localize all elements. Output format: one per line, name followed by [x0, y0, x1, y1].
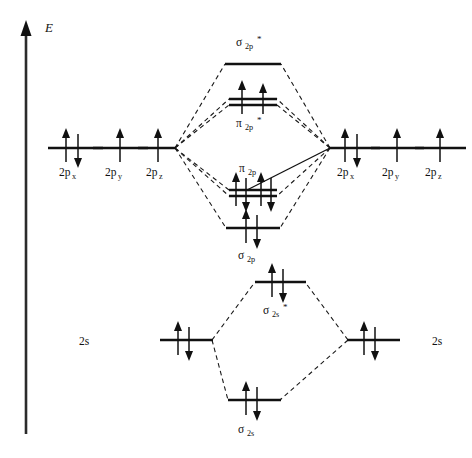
correlation-lines-2s: [212, 282, 348, 400]
level-label: 2p: [382, 166, 394, 179]
electron-arrow-up: [238, 80, 246, 114]
mo-label-subscript: 2p: [247, 255, 255, 264]
level-right-2s[interactable]: 2s: [347, 321, 443, 361]
mo-label-antibonding-star: *: [283, 302, 288, 312]
mo-label: π: [239, 162, 245, 174]
mo-pi-2p-star[interactable]: π 2p *: [229, 80, 277, 132]
level-right-2px[interactable]: 2p x: [329, 128, 380, 181]
level-label-subscript: x: [350, 172, 354, 181]
electron-arrow-up: [242, 381, 250, 415]
mo-label: σ: [263, 304, 270, 316]
level-left-2py[interactable]: 2p y: [93, 128, 148, 181]
level-right-2py[interactable]: 2p y: [371, 128, 424, 181]
level-label: 2s: [432, 335, 443, 347]
mo-label-subscript: 2p: [248, 168, 256, 177]
mo-label-subscript: 2s: [272, 310, 279, 319]
level-label: 2s: [79, 335, 90, 347]
electron-arrow-up: [154, 128, 162, 162]
energy-axis-label: E: [44, 20, 53, 35]
mo-sigma-2s-star[interactable]: σ 2s *: [255, 263, 306, 319]
level-right-2pz[interactable]: 2p z: [415, 128, 466, 181]
right-atom-2p-levels: 2p x 2p y 2p z: [329, 128, 466, 181]
electron-arrow-down: [185, 327, 193, 361]
mo-label: σ: [236, 36, 243, 48]
electron-arrow-up: [62, 128, 70, 162]
mo-label: π: [236, 117, 242, 129]
energy-axis: E: [21, 20, 54, 434]
corr-left-2p-to-sigma2p: [175, 148, 226, 228]
corr-left-2p-to-sigma2p-star: [175, 64, 225, 148]
electron-arrow-up: [436, 128, 444, 162]
electron-arrow-up: [341, 128, 349, 162]
electron-arrow-down: [253, 387, 261, 421]
level-label-subscript: z: [159, 172, 163, 181]
corr-right-2p-to-pi2p-solid: [247, 148, 330, 190]
corr-left-2p-to-pi2p-b: [175, 148, 229, 196]
electron-arrow-down: [74, 134, 82, 168]
level-label-subscript: y: [118, 172, 123, 181]
electron-arrow-down: [253, 215, 261, 249]
level-label-subscript: z: [438, 172, 442, 181]
corr-right-2s-to-sigma2s: [280, 340, 348, 400]
electron-arrow-up: [116, 128, 124, 162]
mo-label-subscript: 2p: [245, 123, 253, 132]
electron-arrow-down: [371, 327, 379, 361]
left-atom-2p-levels: 2p x 2p y 2p z: [48, 128, 176, 181]
level-label: 2p: [337, 166, 349, 179]
level-label: 2p: [146, 166, 158, 179]
corr-right-2p-to-pi2p-star-b: [277, 105, 330, 148]
mo-sigma-2p-star[interactable]: σ 2p *: [225, 34, 281, 64]
corr-left-2p-to-pi2p-star-a: [175, 99, 229, 148]
level-label-subscript: x: [72, 172, 76, 181]
electron-arrow-up: [360, 321, 368, 355]
corr-right-2s-to-sigma2s-star: [305, 282, 348, 340]
mo-label-antibonding-star: *: [257, 34, 262, 44]
corr-right-2p-to-pi2p-star-a: [277, 99, 330, 148]
level-label: 2p: [59, 166, 71, 179]
corr-right-2p-to-pi2p-b: [277, 148, 330, 196]
level-label: 2p: [425, 166, 437, 179]
mo-label-subscript: 2p: [245, 42, 253, 51]
electron-arrow-up: [174, 321, 182, 355]
correlation-lines-2p: [175, 64, 330, 228]
electron-arrow-up: [242, 209, 250, 243]
level-left-2px[interactable]: 2p x: [48, 128, 103, 181]
corr-left-2s-to-sigma2s: [212, 340, 228, 400]
electron-arrow-down: [279, 269, 287, 303]
mo-label-subscript: 2s: [247, 429, 254, 438]
level-label-subscript: y: [395, 172, 400, 181]
corr-right-2p-to-sigma2p-star: [281, 64, 330, 148]
electron-arrow-down: [353, 134, 361, 168]
mo-sigma-2p[interactable]: σ 2p: [226, 209, 280, 264]
mo-sigma-2s[interactable]: σ 2s: [228, 381, 281, 438]
level-label: 2p: [105, 166, 117, 179]
energy-axis-arrowhead: [21, 20, 32, 36]
electron-arrow-up: [268, 263, 276, 297]
level-left-2pz[interactable]: 2p z: [138, 128, 176, 181]
corr-left-2s-to-sigma2s-star: [212, 282, 255, 340]
electron-arrow-up: [393, 128, 401, 162]
mo-label: σ: [238, 249, 245, 261]
mo-label: σ: [238, 423, 245, 435]
mo-diagram-canvas: E: [0, 0, 472, 458]
corr-left-2p-to-pi2p-a: [175, 148, 229, 190]
level-left-2s[interactable]: 2s: [79, 321, 213, 361]
mo-diagram: E: [0, 0, 472, 458]
mo-label-antibonding-star: *: [257, 115, 262, 125]
corr-left-2p-to-pi2p-star-b: [175, 105, 229, 148]
